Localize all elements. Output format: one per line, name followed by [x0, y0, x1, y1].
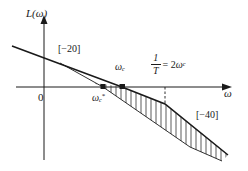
x-axis-label: ω: [224, 88, 232, 99]
slope-minus40-label: [−40]: [196, 110, 218, 120]
fraction-one-over-T: 1 T: [151, 53, 161, 76]
omega-c-star-marker: [101, 84, 106, 89]
crossover-frequency-label: ωc: [115, 62, 125, 73]
bode-diagram: [0, 0, 248, 171]
original-crossover-frequency-label: ωc*: [92, 93, 105, 104]
y-axis-label: L(ω): [26, 8, 47, 19]
origin-label: 0: [38, 92, 44, 103]
omega-c-marker: [120, 84, 126, 89]
slope-minus20-label: [−20]: [58, 44, 80, 54]
corner-frequency-label: 1 T = 2ωc: [151, 53, 186, 76]
